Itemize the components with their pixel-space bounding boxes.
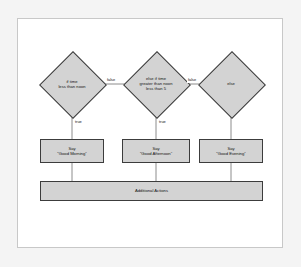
action-label-line2: “Good Evening” (216, 151, 245, 156)
action-label: Say “Good Morning” (57, 146, 86, 157)
additional-actions-bar[interactable]: Additional Actions (40, 181, 263, 201)
action-label-line2: “Good Afternoon” (140, 151, 172, 156)
connector-lines (18, 19, 284, 249)
action-say-good-morning[interactable]: Say “Good Morning” (40, 139, 104, 163)
action-say-good-afternoon[interactable]: Say “Good Afternoon” (122, 139, 190, 163)
diagram-frame: if time less than noon else if time grea… (17, 18, 283, 248)
additional-actions-label: Additional Actions (135, 188, 168, 193)
action-label-line2: “Good Morning” (57, 151, 86, 156)
edge-label-false-2: false (187, 78, 197, 83)
action-say-good-evening[interactable]: Say “Good Evening” (199, 139, 263, 163)
screenshot-root: if time less than noon else if time grea… (0, 0, 301, 267)
decision-if-time-less-than-noon[interactable]: if time less than noon (49, 61, 95, 107)
action-label: Say “Good Afternoon” (140, 146, 172, 157)
action-label: Say “Good Evening” (216, 146, 245, 157)
edge-label-true-1: true (74, 120, 83, 125)
decision-else-if-time-greater-than-noon[interactable]: else if time greater than noon less than… (133, 61, 179, 107)
edge-label-false-1: false (106, 78, 116, 83)
diagram-canvas: if time less than noon else if time grea… (18, 19, 284, 249)
edge-label-true-2: true (158, 120, 167, 125)
decision-else[interactable]: else (208, 61, 254, 107)
